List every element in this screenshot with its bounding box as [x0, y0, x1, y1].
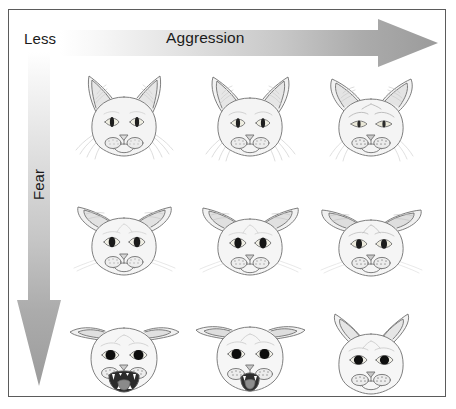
cat-high-fear-medium-aggression [188, 292, 313, 409]
axis-label-fear: Fear [30, 145, 47, 225]
cat-high-fear-low-aggression [62, 292, 187, 409]
axis-label-aggression: Aggression [166, 29, 245, 47]
cat-medium-fear-high-aggression [309, 174, 434, 292]
cat-low-fear-high-aggression [309, 56, 434, 174]
axis-start-label-less: Less [24, 30, 56, 47]
cat-low-fear-medium-aggression [188, 56, 313, 174]
figure-canvas: Less Aggression Fear [0, 0, 456, 409]
cat-low-fear-low-aggression [62, 56, 187, 174]
cat-medium-fear-low-aggression [62, 174, 187, 292]
cat-medium-fear-medium-aggression [188, 174, 313, 292]
cat-emotion-grid [62, 56, 437, 396]
cat-high-fear-high-aggression [309, 292, 434, 409]
